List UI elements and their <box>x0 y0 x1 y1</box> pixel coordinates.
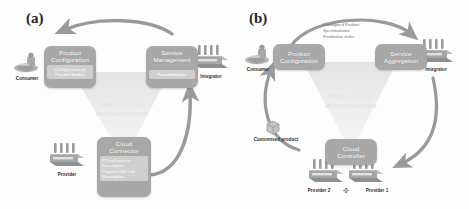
customised-product-icon <box>265 120 281 136</box>
node-title-line1: Service <box>384 50 418 57</box>
node-body: FaçadeModule <box>149 70 195 78</box>
node-product-configuration[interactable]: Product Configuration <box>273 44 325 70</box>
node-body-line: FaçadeModule <box>151 72 193 77</box>
consumer-icon <box>243 44 275 66</box>
figure-canvas: (a) Manu Cloud Infrastructure <box>0 0 469 209</box>
panel-b-watermark-line1: Manu Cloud <box>309 92 393 101</box>
node-title-line1: Service <box>153 49 190 56</box>
node-title-line2: Configuration <box>280 57 318 64</box>
provider-1-label: Provider 1 <box>355 188 399 194</box>
node-title-line2: Aggregation <box>384 57 418 64</box>
node-cloud-connector[interactable]: Cloud Connector PV cell service Descript… <box>97 137 151 197</box>
node-title-line1: Product <box>51 49 89 56</box>
node-service-management[interactable]: Service Management FaçadeModule <box>146 46 198 88</box>
node-title-line2: Management <box>153 56 190 63</box>
panel-a-watermark-line2: Infrastructure <box>80 109 164 118</box>
provider-2-label: Provider 2 <box>297 188 341 194</box>
node-title-line2: Configuration <box>51 56 89 63</box>
annotation-line3: Production order <box>323 34 359 40</box>
node-body-line: Description <box>102 174 146 179</box>
consumer-icon <box>12 52 44 74</box>
node-title-line1: Cloud <box>337 145 365 152</box>
node-title: Service Management <box>153 49 190 63</box>
node-service-aggregation[interactable]: Service Aggregation <box>375 44 427 70</box>
node-title: Cloud Controller <box>337 145 365 159</box>
node-title: Cloud Connector <box>109 140 138 154</box>
node-title-line2: Connector <box>109 147 138 154</box>
node-title: Service Aggregation <box>384 50 418 64</box>
panel-a-watermark-label: Manu Cloud Infrastructure <box>80 100 164 118</box>
node-title-line1: Product <box>280 50 318 57</box>
node-title: Product Configuration <box>280 50 318 64</box>
node-title-line1: Cloud <box>109 140 138 147</box>
panel-b: (b) Manu Cloud Infrastructure <box>235 0 469 209</box>
panel-a: (a) Manu Cloud Infrastructure <box>0 0 234 209</box>
node-product-configuration[interactable]: Product Configuration Configuration of F… <box>44 46 96 88</box>
provider-icon <box>48 142 86 170</box>
customised-product-label: Customised product <box>243 137 309 143</box>
panel-b-annotation: Configured Product Specifications/ Produ… <box>323 22 359 40</box>
node-title-line2: Controller <box>337 152 365 159</box>
panel-a-tag: (a) <box>26 10 44 27</box>
provider-link-icon: -()- <box>343 188 349 193</box>
panel-b-tag: (b) <box>249 10 267 27</box>
node-body-line: Façade Modue <box>49 72 91 77</box>
panel-a-watermark-line1: Manu Cloud <box>80 100 164 109</box>
node-body: PV cell service Description Organic LED … <box>100 156 148 181</box>
node-cloud-controller[interactable]: Cloud Controller <box>325 139 377 165</box>
node-title: Product Configuration <box>51 49 89 63</box>
node-body: Configuration of Façade Modue <box>47 65 93 79</box>
provider-label: Provider <box>44 172 90 178</box>
panel-b-watermark-line2: Infrastructure <box>309 101 393 110</box>
panel-b-watermark-label: Manu Cloud Infrastructure <box>309 92 393 110</box>
